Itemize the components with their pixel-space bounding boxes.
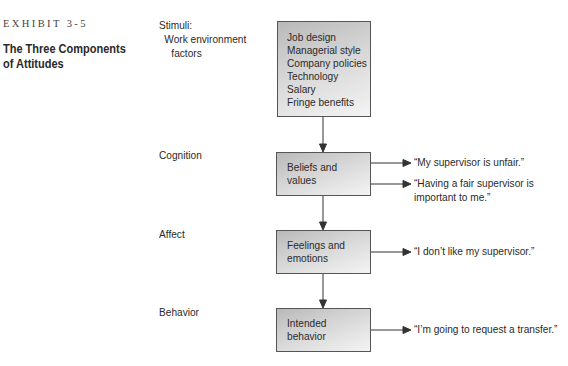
quote-line: important to me.” <box>414 191 534 205</box>
outcome-quote: “I’m going to request a transfer.” <box>414 323 557 337</box>
arrowhead-right-icon <box>403 160 411 167</box>
arrowhead-down-icon <box>320 300 327 308</box>
arrowhead-down-icon <box>320 222 327 230</box>
outcome-quote: “Having a fair supervisor is important t… <box>414 177 534 204</box>
outcome-quote: “I don’t like my supervisor.” <box>414 245 534 259</box>
outcome-quote: “My supervisor is unfair.” <box>414 156 524 170</box>
arrowhead-right-icon <box>403 181 411 188</box>
arrowhead-right-icon <box>403 249 411 256</box>
quote-line: “Having a fair supervisor is <box>414 177 534 191</box>
arrowhead-down-icon <box>320 144 327 152</box>
arrowhead-right-icon <box>403 327 411 334</box>
